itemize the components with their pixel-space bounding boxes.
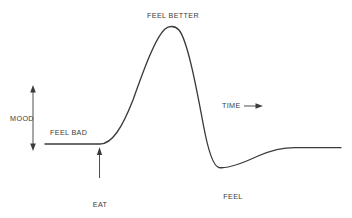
mood-curve-svg <box>0 0 352 218</box>
eat-sugary-things-pointer-icon <box>97 147 102 178</box>
time-axis-arrow-icon <box>244 103 263 108</box>
eat-sugary-things-label: EAT SUGARY THINGS <box>74 181 126 218</box>
feel-bad-label: FEEL BAD <box>50 128 87 138</box>
eat-sugary-things-line-1: EAT <box>74 200 126 210</box>
feel-worse-line-1: FEEL <box>205 192 261 202</box>
mood-axis-label: MOOD <box>9 114 35 124</box>
feel-better-label: FEEL BETTER <box>137 11 209 21</box>
feel-worse-label: FEEL WORSE <box>205 173 261 218</box>
mood-curve-figure: MOOD FEEL BAD EAT SUGARY THINGS FEEL BET… <box>0 0 352 218</box>
time-axis-label: TIME <box>222 101 241 111</box>
mood-curve-path <box>45 26 341 167</box>
